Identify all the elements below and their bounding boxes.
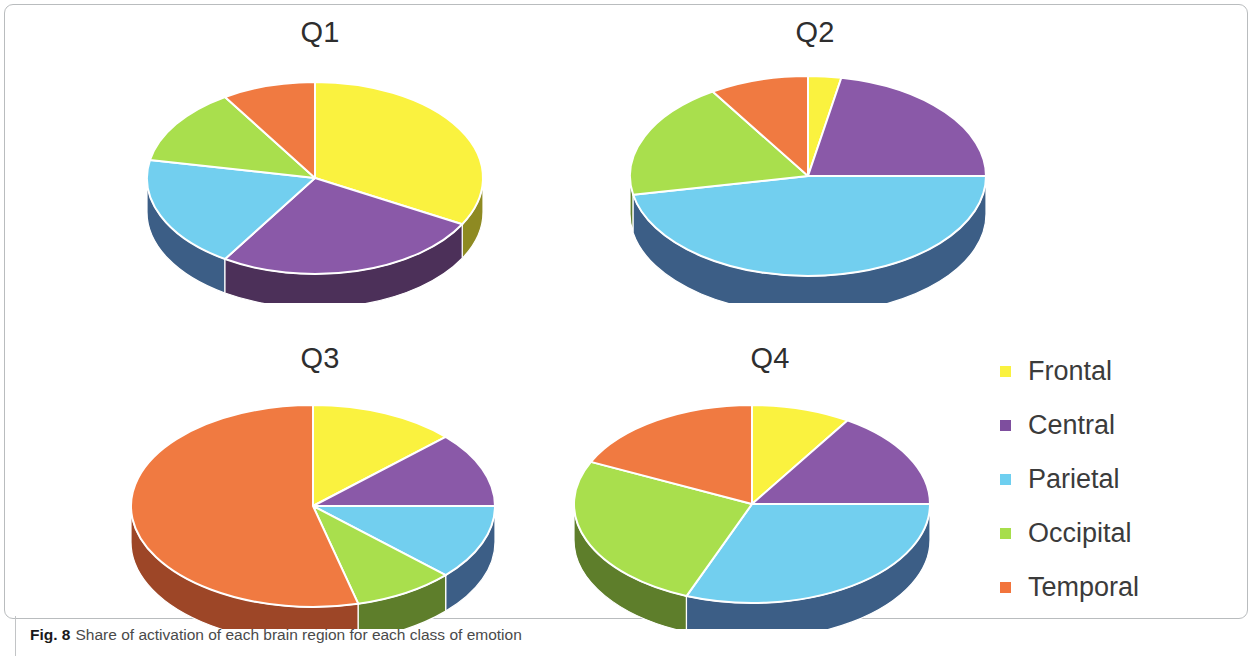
legend-item-label: Parietal (1028, 466, 1120, 493)
legend-item-label: Temporal (1028, 574, 1139, 601)
figure-root: Q1Q2Q3Q4 FrontalCentralParietalOccipital… (0, 0, 1253, 662)
pie-chart-q1: Q1 (120, 18, 520, 303)
legend-item-label: Frontal (1028, 358, 1112, 385)
pie-canvas (560, 386, 980, 629)
legend-item-frontal: Frontal (1000, 344, 1230, 398)
legend-swatch-icon (1000, 366, 1011, 377)
legend-item-label: Occipital (1028, 520, 1132, 547)
pie-title-q2: Q2 (600, 18, 1030, 47)
pie-canvas (600, 60, 1030, 303)
legend-item-temporal: Temporal (1000, 560, 1230, 614)
legend-item-parietal: Parietal (1000, 452, 1230, 506)
pie-chart-q4: Q4 (560, 344, 980, 629)
legend-item-central: Central (1000, 398, 1230, 452)
caption-rule (15, 616, 16, 656)
figure-caption: Fig. 8Share of activation of each brain … (30, 626, 1180, 644)
pie-title-q3: Q3 (110, 344, 530, 373)
pie-title-q1: Q1 (120, 18, 520, 47)
pie-title-q4: Q4 (560, 344, 980, 373)
legend: FrontalCentralParietalOccipitalTemporal (1000, 344, 1230, 614)
legend-swatch-icon (1000, 474, 1011, 485)
legend-swatch-icon (1000, 528, 1011, 539)
pie-chart-q3: Q3 (110, 344, 530, 629)
legend-item-occipital: Occipital (1000, 506, 1230, 560)
caption-label: Fig. 8 (30, 626, 70, 643)
legend-swatch-icon (1000, 582, 1011, 593)
pie-chart-q2: Q2 (600, 18, 1030, 303)
legend-swatch-icon (1000, 420, 1011, 431)
legend-item-label: Central (1028, 412, 1115, 439)
pie-canvas (110, 386, 530, 629)
caption-text: Share of activation of each brain region… (75, 626, 521, 643)
pie-canvas (120, 60, 520, 303)
